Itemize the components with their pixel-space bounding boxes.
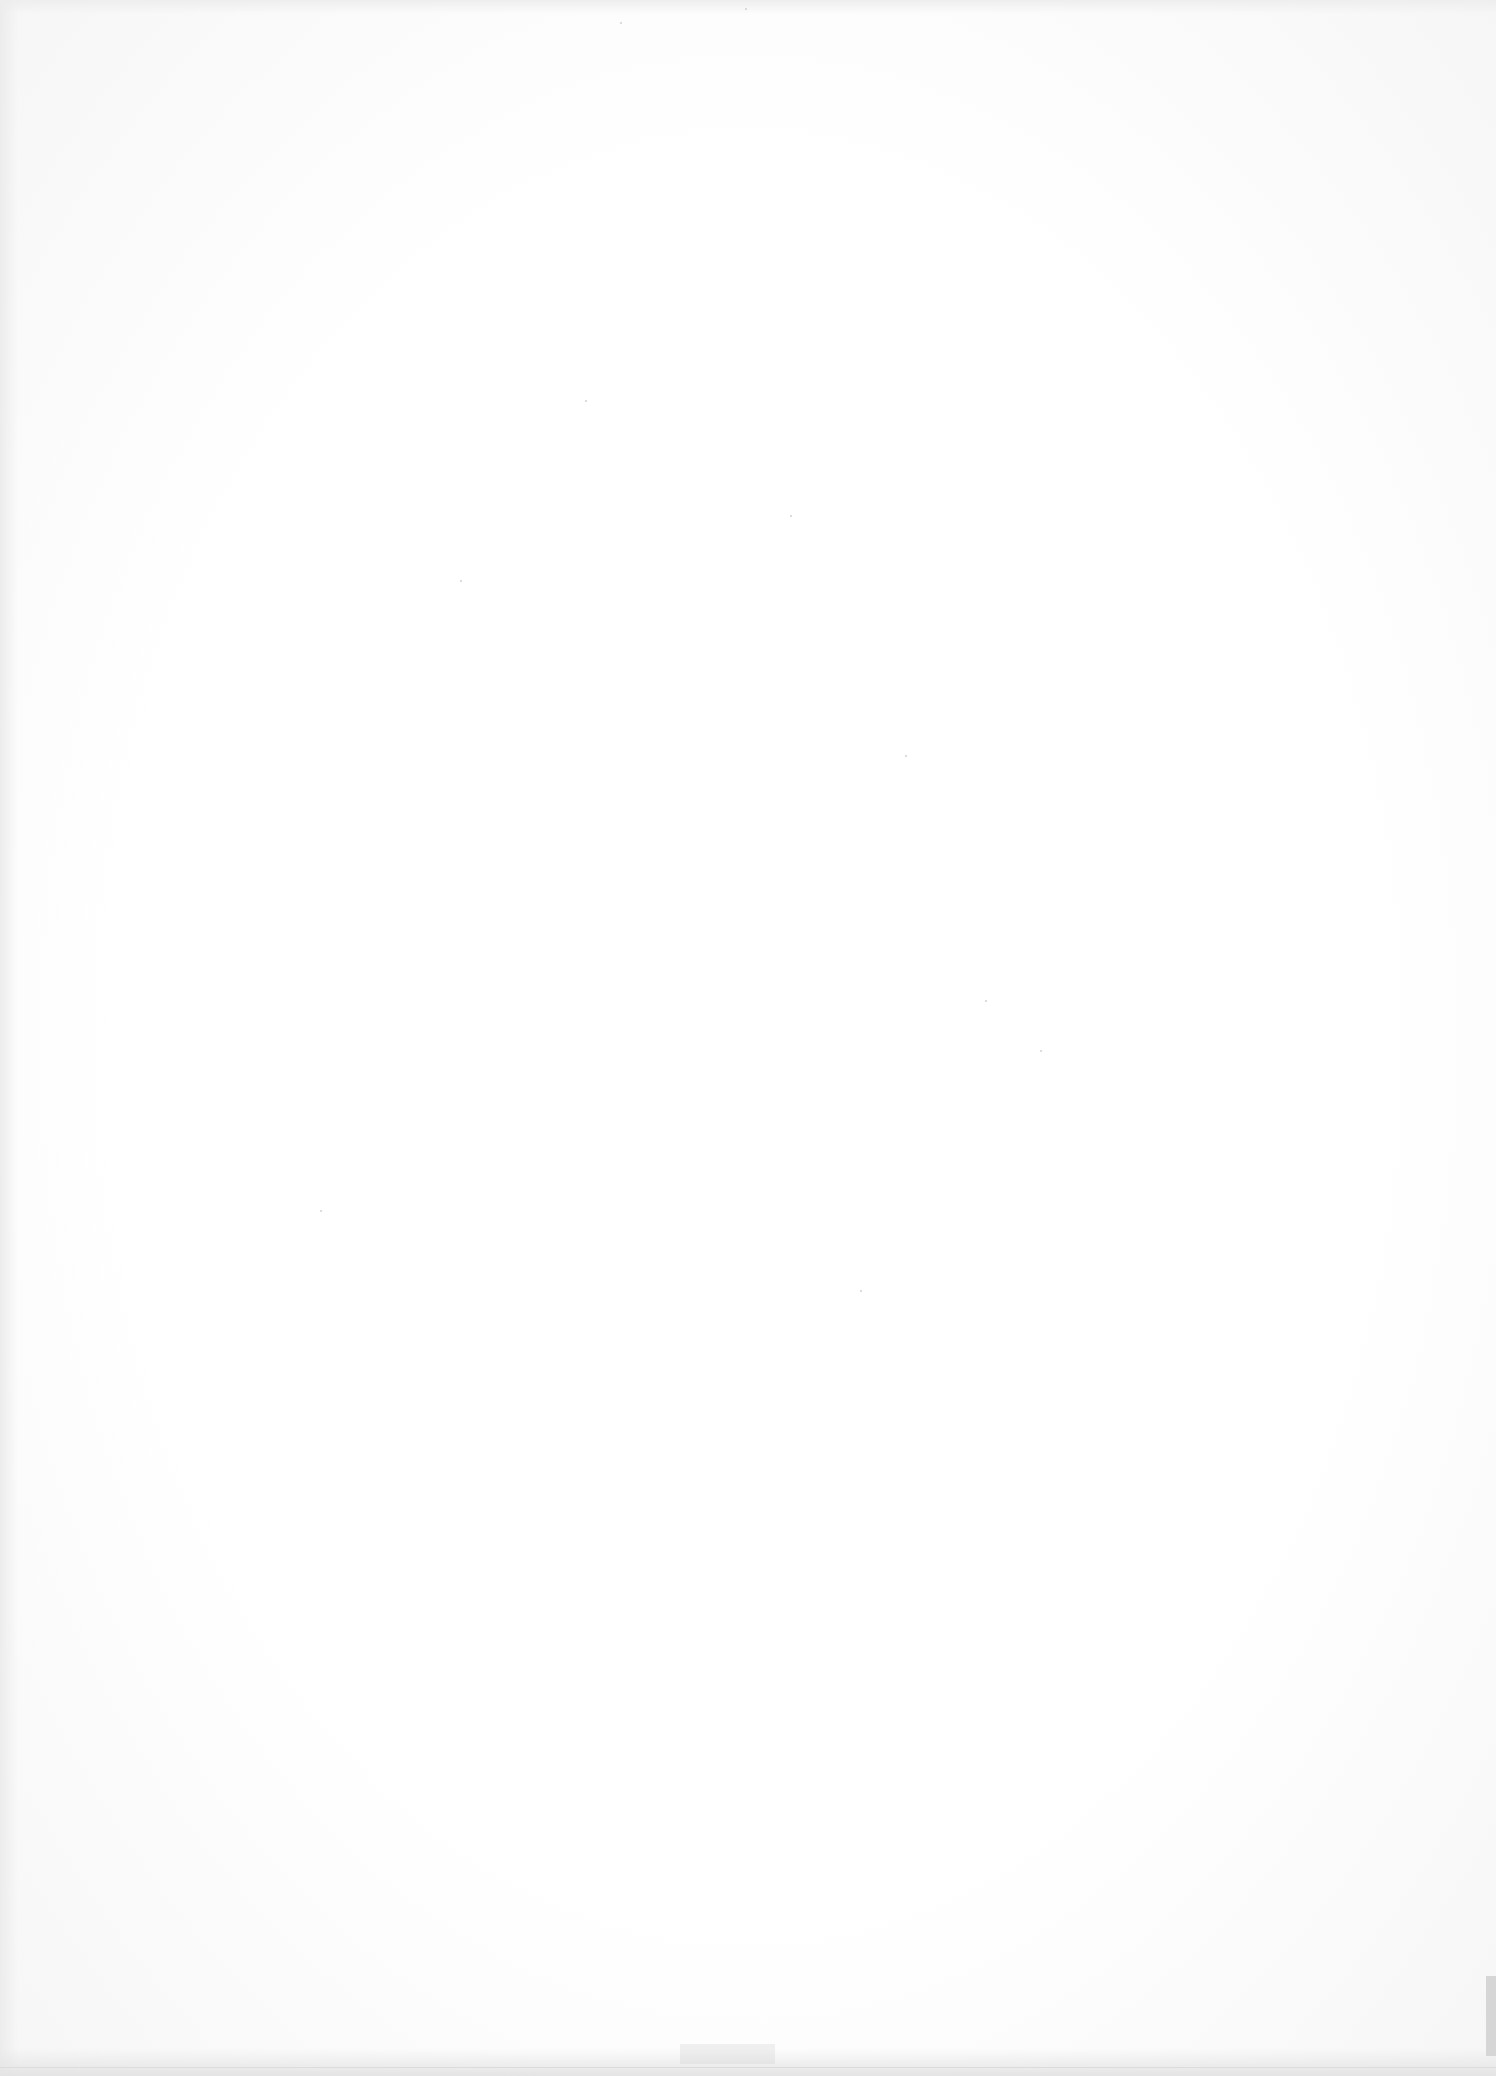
- speck: [790, 515, 792, 517]
- scan-bottom-line: [0, 2067, 1496, 2068]
- faint-smudge: [680, 2044, 775, 2064]
- speck: [985, 1000, 987, 1002]
- speck: [860, 1290, 862, 1292]
- scan-edge-top: [0, 0, 1496, 14]
- speck: [320, 1210, 322, 1212]
- speck: [745, 8, 747, 10]
- speck: [585, 400, 587, 402]
- speck: [460, 580, 462, 582]
- scan-edge-left: [0, 0, 18, 2076]
- speck: [620, 22, 622, 24]
- speck: [905, 755, 907, 757]
- speck: [1040, 1050, 1042, 1052]
- scan-edge-right-mark: [1486, 1976, 1496, 2056]
- blank-page: [0, 0, 1496, 2076]
